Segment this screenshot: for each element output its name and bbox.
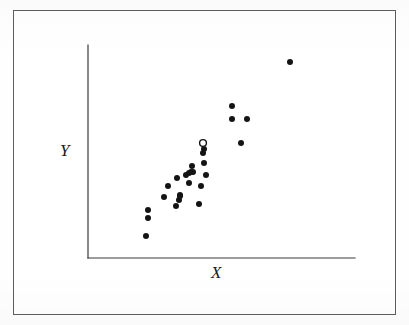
data-points xyxy=(143,59,293,239)
data-point xyxy=(143,233,149,239)
data-point-open xyxy=(200,140,207,147)
data-point xyxy=(145,207,151,213)
data-point xyxy=(198,183,204,189)
data-point xyxy=(165,183,171,189)
data-point xyxy=(201,160,207,166)
data-point xyxy=(229,103,235,109)
data-point xyxy=(287,59,293,65)
data-point xyxy=(186,180,192,186)
data-point xyxy=(229,116,235,122)
data-point xyxy=(203,172,209,178)
x-axis-label: X xyxy=(211,263,222,283)
axis-lines xyxy=(88,45,355,258)
data-point xyxy=(190,169,196,175)
data-point xyxy=(244,116,250,122)
data-point xyxy=(173,203,179,209)
y-axis-label: Y xyxy=(60,141,70,161)
data-point xyxy=(174,175,180,181)
data-point xyxy=(161,194,167,200)
data-point xyxy=(196,201,202,207)
scatter-plot xyxy=(0,0,409,325)
data-point xyxy=(145,215,151,221)
data-point xyxy=(189,163,195,169)
data-point xyxy=(238,140,244,146)
data-point xyxy=(177,192,183,198)
figure-page: Y X xyxy=(0,0,409,325)
